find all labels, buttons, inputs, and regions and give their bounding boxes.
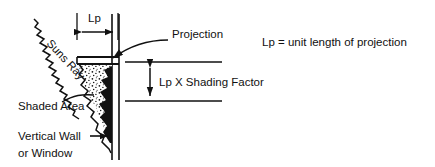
shading-diagram: Suns Ray Lp Projection Lp X Shading Fact… [0, 0, 435, 167]
projection-leader [113, 40, 168, 58]
shaded-area-label: Shaded Area [18, 100, 85, 112]
figure-canvas: Suns Ray Lp Projection Lp X Shading Fact… [0, 0, 435, 167]
shading-factor-label: Lp X Shading Factor [159, 76, 264, 88]
lp-dimension-label: Lp [88, 12, 101, 24]
vertical-wall-label-line1: Vertical Wall [18, 130, 81, 142]
legend-note: Lp = unit length of projection [262, 36, 407, 48]
suns-ray-label: Suns Ray [45, 37, 88, 82]
projection-label: Projection [172, 28, 223, 40]
vertical-wall-label-line2: or Window [18, 147, 73, 159]
